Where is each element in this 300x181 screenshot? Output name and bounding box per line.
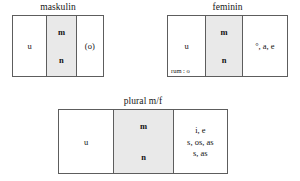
cell-feminin-left-note: rum : o [171,67,190,74]
cell-plural-right-line3: s, as [193,148,208,158]
cell-maskulin-left: u [13,16,46,76]
cell-feminin-middle-top-label: m [221,27,228,37]
table-plural: u m n i, e s, os, as s, as [58,109,228,174]
stack-plural-middle: m n [114,110,172,173]
cell-plural-middle-top-label: m [140,121,147,131]
cell-maskulin-middle-top-label: m [58,27,65,37]
table-feminin: u rum : o m n °, a, e [167,15,288,77]
cell-feminin-left: u rum : o [168,16,205,76]
cell-feminin-middle-bottom-label: n [222,55,227,65]
table-maskulin: u m n (o) [12,15,104,77]
cell-plural-right: i, e s, os, as s, as [173,110,227,173]
cell-plural-middle: m n [113,110,172,173]
group-title-feminin: feminin [167,2,288,13]
cell-maskulin-middle: m n [46,16,75,76]
cell-feminin-left-label: u [185,41,189,51]
stack-maskulin-middle: m n [47,16,75,76]
group-feminin: feminin u rum : o m n °, a, e [167,2,288,77]
cell-feminin-right: °, a, e [242,16,287,76]
stack-feminin-middle: m n [206,16,241,76]
cell-maskulin-right-label: (o) [85,41,95,51]
cell-plural-middle-bottom-label: n [141,152,146,162]
group-plural: plural m/f u m n i, e s, os, as s, as [58,96,228,174]
cell-feminin-right-label: °, a, e [255,41,274,51]
cell-maskulin-right: (o) [76,16,103,76]
group-title-plural: plural m/f [58,96,228,107]
cell-plural-left: u [59,110,113,173]
gender-inflection-diagram: maskulin u m n (o) feminin u rum : o [0,0,300,181]
cell-maskulin-middle-bottom-label: n [59,55,64,65]
cell-plural-right-line2: s, os, as [187,137,213,147]
cell-feminin-middle: m n [205,16,241,76]
cell-maskulin-left-label: u [28,41,32,51]
lines-plural-right: i, e s, os, as s, as [174,125,227,158]
cell-plural-left-label: u [84,137,88,147]
cell-plural-right-line1: i, e [195,125,205,135]
group-maskulin: maskulin u m n (o) [12,2,104,77]
group-title-maskulin: maskulin [12,2,104,13]
